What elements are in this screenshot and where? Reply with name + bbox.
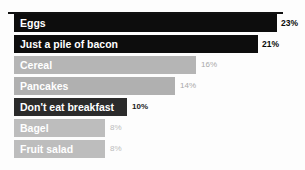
bar-label-bagel: Bagel (14, 119, 49, 137)
bar-eggs: Eggs (14, 14, 277, 32)
bar-row-cereal: Cereal 16% (0, 56, 305, 74)
bar-value-dont-eat-breakfast: 10% (132, 98, 148, 116)
bar-row-fruit-salad: Fruit salad 8% (0, 140, 305, 158)
bar-value-pancakes: 14% (180, 77, 196, 95)
breakfast-preferences-bar-chart: Eggs 23% Just a pile of bacon 21% Cereal… (0, 0, 305, 170)
bar-label-fruit-salad: Fruit salad (14, 140, 73, 158)
bar-bagel: Bagel (14, 119, 105, 137)
bar-just-a-pile-of-bacon: Just a pile of bacon (14, 35, 258, 53)
bar-label-dont-eat-breakfast: Don't eat breakfast (14, 98, 114, 116)
bar-label-eggs: Eggs (14, 14, 46, 32)
bar-value-fruit-salad: 8% (110, 140, 122, 158)
bar-row-just-a-pile-of-bacon: Just a pile of bacon 21% (0, 35, 305, 53)
bar-row-eggs: Eggs 23% (0, 14, 305, 32)
bar-label-just-a-pile-of-bacon: Just a pile of bacon (14, 35, 118, 53)
bar-value-bagel: 8% (110, 119, 122, 137)
bar-fruit-salad: Fruit salad (14, 140, 105, 158)
bar-dont-eat-breakfast: Don't eat breakfast (14, 98, 127, 116)
bar-row-pancakes: Pancakes 14% (0, 77, 305, 95)
bar-pancakes: Pancakes (14, 77, 175, 95)
bar-label-pancakes: Pancakes (14, 77, 68, 95)
bar-value-cereal: 16% (201, 56, 217, 74)
bar-value-just-a-pile-of-bacon: 21% (262, 35, 279, 53)
bar-cereal: Cereal (14, 56, 196, 74)
bar-label-cereal: Cereal (14, 56, 52, 74)
bar-row-dont-eat-breakfast: Don't eat breakfast 10% (0, 98, 305, 116)
bar-row-bagel: Bagel 8% (0, 119, 305, 137)
bar-value-eggs: 23% (281, 14, 298, 32)
chart-plot-area: Eggs 23% Just a pile of bacon 21% Cereal… (0, 14, 305, 161)
